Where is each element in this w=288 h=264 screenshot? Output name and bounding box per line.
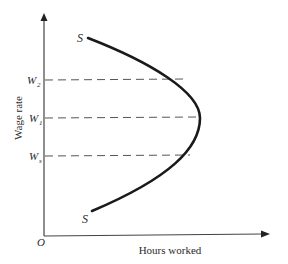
curve-label-top: S xyxy=(77,31,83,45)
svg-text:2: 2 xyxy=(37,81,41,89)
curve-label-bottom: S xyxy=(82,212,88,226)
w2-dashed-line xyxy=(45,79,186,80)
w2-label: W 2 xyxy=(27,74,41,89)
ws-dashed-line xyxy=(45,155,190,156)
x-axis-arrow-icon xyxy=(261,231,270,238)
origin-label: O xyxy=(37,236,45,248)
svg-text:1: 1 xyxy=(39,119,43,127)
w1-label: W 1 xyxy=(29,112,43,127)
backward-bending-supply-diagram: S S W 2 W 1 W s Wage rate Hours worked O xyxy=(0,0,288,264)
ws-label: W s xyxy=(29,150,42,165)
y-axis-title: Wage rate xyxy=(12,96,24,140)
svg-text:s: s xyxy=(39,157,42,165)
x-axis-title: Hours worked xyxy=(139,244,202,256)
svg-text:W: W xyxy=(29,150,39,162)
svg-text:W: W xyxy=(27,74,37,86)
supply-curve xyxy=(88,38,200,211)
x-axis xyxy=(44,231,270,238)
y-axis-arrow-icon xyxy=(41,13,48,21)
svg-text:W: W xyxy=(29,112,39,124)
w1-dashed-line xyxy=(45,117,199,118)
